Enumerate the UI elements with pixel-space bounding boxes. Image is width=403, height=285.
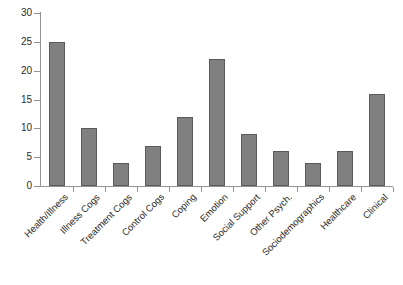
bar	[81, 128, 97, 186]
y-axis-tick-label: 20	[2, 66, 32, 76]
y-axis-tick	[34, 42, 41, 43]
x-axis-label: Illness Cogs	[95, 192, 102, 199]
x-axis-label-text: Illness Cogs	[58, 192, 102, 236]
x-axis-label-text: Health/Illness	[23, 192, 70, 239]
y-axis-tick-label: 15	[2, 95, 32, 105]
x-axis-tick	[297, 187, 298, 192]
bar	[113, 163, 129, 186]
bar	[273, 151, 289, 186]
x-axis-label: Emotion	[223, 192, 230, 199]
x-axis-label-text: Social Support	[211, 192, 262, 243]
x-axis-label: Health/Illness	[63, 192, 70, 199]
x-axis-tick	[393, 187, 394, 192]
bar	[177, 117, 193, 186]
x-axis-tick	[201, 187, 202, 192]
x-axis-label-text: Clinical	[361, 192, 390, 221]
x-axis-label-text: Treatment Cogs	[79, 192, 134, 247]
y-axis-tick-label: 5	[2, 152, 32, 162]
x-axis-label: Other Psych.	[287, 192, 294, 199]
plot-area	[41, 13, 393, 186]
y-axis-tick	[34, 186, 41, 187]
x-axis-tick	[137, 187, 138, 192]
x-axis-label: Clinical	[383, 192, 390, 199]
bar-chart: 051015202530 Health/IllnessIllness CogsT…	[0, 0, 403, 285]
x-axis-tick	[361, 187, 362, 192]
x-axis-tick	[265, 187, 266, 192]
x-axis-label-text: Coping	[170, 192, 198, 220]
bar	[49, 42, 65, 186]
x-axis-tick	[233, 187, 234, 192]
x-axis-tick	[105, 187, 106, 192]
x-axis-label-text: Other Psych.	[248, 192, 294, 238]
x-axis-tick	[169, 187, 170, 192]
y-axis-tick	[34, 71, 41, 72]
y-axis-tick-label: 0	[2, 181, 32, 191]
x-axis-label: Control Cogs	[159, 192, 166, 199]
y-axis-tick-label: 30	[2, 8, 32, 18]
bar	[145, 146, 161, 186]
y-axis-tick	[34, 128, 41, 129]
x-axis-tick	[73, 187, 74, 192]
y-axis-tick-label: 10	[2, 123, 32, 133]
x-axis-label-text: Sociodemographics	[260, 192, 326, 258]
y-axis-tick-label: 25	[2, 37, 32, 47]
y-axis-tick	[34, 13, 41, 14]
x-axis-label-text: Control Cogs	[120, 192, 166, 238]
x-axis-label: Coping	[191, 192, 198, 199]
bar	[337, 151, 353, 186]
x-axis-label: Treatment Cogs	[127, 192, 134, 199]
bar-series	[41, 13, 393, 186]
x-axis-line	[40, 186, 393, 187]
y-axis-tick	[34, 100, 41, 101]
x-axis-tick	[329, 187, 330, 192]
x-axis-label-text: Healthcare	[318, 192, 358, 232]
y-axis-tick	[34, 157, 41, 158]
bar	[209, 59, 225, 186]
bar	[369, 94, 385, 186]
x-axis-label-text: Emotion	[198, 192, 230, 224]
bar	[241, 134, 257, 186]
x-axis-label: Healthcare	[351, 192, 358, 199]
x-axis-label: Social Support	[255, 192, 262, 199]
x-axis-label: Sociodemographics	[319, 192, 326, 199]
bar	[305, 163, 321, 186]
